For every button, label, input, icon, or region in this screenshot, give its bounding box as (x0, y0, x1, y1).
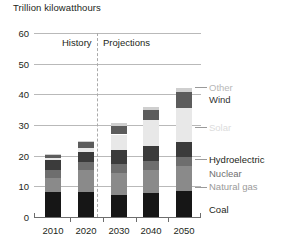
bar-2050[interactable] (176, 0, 192, 217)
bar-segment-solar-2040[interactable] (143, 120, 159, 146)
bar-segment-wind-2030[interactable] (111, 126, 127, 135)
ytick-label-60: 60 (0, 28, 29, 39)
bar-segment-nuclear-2020[interactable] (78, 162, 94, 170)
leader-line-naturalgas (195, 187, 207, 188)
series-label-solar: Solar (209, 122, 231, 133)
x-axis-endcap-right (200, 213, 201, 218)
bar-segment-natural-gas-2050[interactable] (176, 166, 192, 191)
x-axis-endcap-left (34, 213, 35, 218)
bar-segment-other-2020[interactable] (78, 141, 94, 143)
bar-segment-other-2040[interactable] (143, 107, 159, 110)
bar-segment-solar-2030[interactable] (111, 135, 127, 150)
bar-segment-natural-gas-2030[interactable] (111, 173, 127, 195)
bar-2010[interactable] (45, 0, 61, 217)
bar-segment-nuclear-2050[interactable] (176, 157, 192, 167)
bar-segment-natural-gas-2040[interactable] (143, 170, 159, 193)
ytick-label-0: 0 (0, 212, 29, 223)
bar-2020[interactable] (78, 0, 94, 217)
bar-2030[interactable] (111, 0, 127, 217)
bar-segment-nuclear-2040[interactable] (143, 161, 159, 171)
bar-segment-other-2030[interactable] (111, 123, 127, 125)
bar-segment-other-2010[interactable] (45, 154, 61, 155)
xtick-label-2020: 2020 (69, 225, 103, 236)
bar-segment-natural-gas-2020[interactable] (78, 170, 94, 192)
series-label-nuclear: Nuclear (209, 168, 242, 179)
bar-segment-solar-2020[interactable] (78, 148, 94, 152)
bar-segment-coal-2010[interactable] (45, 192, 61, 217)
bar-segment-coal-2050[interactable] (176, 191, 192, 217)
ytick-label-40: 40 (0, 89, 29, 100)
bar-segment-coal-2040[interactable] (143, 193, 159, 217)
bar-segment-hydroelectric-2010[interactable] (45, 160, 61, 170)
x-tickmark-1 (70, 218, 71, 222)
bar-segment-hydroelectric-2030[interactable] (111, 150, 127, 164)
bar-segment-hydroelectric-2020[interactable] (78, 152, 94, 162)
bar-segment-hydroelectric-2040[interactable] (143, 146, 159, 161)
series-label-wind: Wind (209, 94, 231, 105)
bar-segment-wind-2050[interactable] (176, 92, 192, 107)
leader-line-other (195, 87, 207, 88)
ytick-label-30: 30 (0, 120, 29, 131)
chart-container: Trillion kilowatthours 60 50 40 30 20 10… (0, 0, 285, 252)
leader-line-hydroelectric (195, 159, 207, 160)
xtick-label-2050: 2050 (167, 225, 201, 236)
bar-segment-nuclear-2030[interactable] (111, 164, 127, 173)
bar-segment-solar-2010[interactable] (45, 158, 61, 160)
ytick-label-50: 50 (0, 59, 29, 70)
bar-segment-wind-2040[interactable] (143, 110, 159, 120)
bar-segment-nuclear-2010[interactable] (45, 170, 61, 178)
bar-segment-other-2050[interactable] (176, 88, 192, 92)
series-label-natural-gas: Natural gas (209, 181, 258, 192)
x-tickmark-2 (103, 218, 104, 222)
series-label-other: Other (209, 82, 233, 93)
ytick-label-10: 10 (0, 181, 29, 192)
history-projection-divider (97, 33, 98, 217)
bar-segment-wind-2020[interactable] (78, 142, 94, 147)
leader-line-solar (195, 127, 207, 128)
x-axis-line (34, 217, 201, 218)
xtick-label-2040: 2040 (134, 225, 168, 236)
bar-segment-wind-2010[interactable] (45, 155, 61, 158)
x-tickmark-4 (168, 218, 169, 222)
xtick-label-2030: 2030 (102, 225, 136, 236)
bar-segment-natural-gas-2010[interactable] (45, 178, 61, 192)
bar-segment-coal-2020[interactable] (78, 192, 94, 217)
series-label-coal: Coal (209, 204, 229, 215)
xtick-label-2010: 2010 (36, 225, 70, 236)
series-label-hydroelectric: Hydroelectric (209, 154, 264, 165)
bar-segment-coal-2030[interactable] (111, 195, 127, 217)
bar-segment-solar-2050[interactable] (176, 108, 192, 143)
bar-2040[interactable] (143, 0, 159, 217)
bar-segment-hydroelectric-2050[interactable] (176, 142, 192, 156)
plot-area: 60 50 40 30 20 10 0 History Projections … (0, 0, 285, 252)
x-tickmark-3 (136, 218, 137, 222)
ytick-label-20: 20 (0, 151, 29, 162)
